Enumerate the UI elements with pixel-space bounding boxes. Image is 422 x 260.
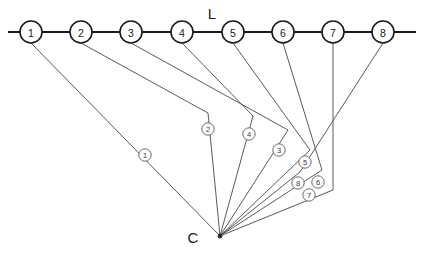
top-node-2[interactable]: 2 bbox=[70, 21, 92, 43]
edge-path-8 bbox=[220, 43, 383, 236]
edge-label-text-5: 5 bbox=[303, 158, 307, 167]
edge-label-text-4: 4 bbox=[247, 130, 251, 139]
edge-label-8-8[interactable]: 8 bbox=[292, 177, 304, 189]
edge-label-text-2: 2 bbox=[206, 125, 210, 134]
edges-group bbox=[31, 43, 383, 236]
hub-label: C bbox=[188, 229, 199, 246]
top-node-3-label: 3 bbox=[128, 27, 134, 39]
top-node-7[interactable]: 7 bbox=[322, 21, 344, 43]
top-node-2-label: 2 bbox=[78, 27, 84, 39]
edge-label-text-8: 8 bbox=[296, 179, 300, 188]
top-node-6[interactable]: 6 bbox=[272, 21, 294, 43]
top-node-8[interactable]: 8 bbox=[372, 21, 394, 43]
diagram-canvas: 12345678 12345678 LC bbox=[0, 0, 422, 260]
edge-label-3-3[interactable]: 3 bbox=[273, 144, 285, 156]
edge-label-5-5[interactable]: 5 bbox=[299, 156, 311, 168]
edge-path-1 bbox=[31, 43, 220, 236]
edge-path-2 bbox=[81, 43, 220, 236]
top-node-6-label: 6 bbox=[280, 27, 286, 39]
edge-path-7 bbox=[220, 43, 333, 236]
edge-label-text-1: 1 bbox=[143, 151, 147, 160]
edge-label-2-2[interactable]: 2 bbox=[202, 123, 214, 135]
top-node-7-label: 7 bbox=[330, 27, 336, 39]
top-node-3[interactable]: 3 bbox=[120, 21, 142, 43]
hub-group bbox=[218, 234, 223, 239]
convergence-point-C[interactable] bbox=[218, 234, 223, 239]
edge-label-4-4[interactable]: 4 bbox=[243, 128, 255, 140]
edge-label-1-1[interactable]: 1 bbox=[139, 149, 151, 161]
top-node-5[interactable]: 5 bbox=[222, 21, 244, 43]
diagram-svg: 12345678 12345678 LC bbox=[0, 0, 422, 260]
backbone-label: L bbox=[208, 5, 216, 22]
top-node-8-label: 8 bbox=[380, 27, 386, 39]
edge-label-text-7: 7 bbox=[307, 191, 311, 200]
edge-label-text-3: 3 bbox=[277, 146, 281, 155]
top-node-1-label: 1 bbox=[28, 27, 34, 39]
top-node-4-label: 4 bbox=[179, 27, 185, 39]
edge-labels-group: 12345678 bbox=[139, 123, 324, 201]
top-node-1[interactable]: 1 bbox=[20, 21, 42, 43]
edge-path-6 bbox=[220, 43, 322, 236]
top-node-5-label: 5 bbox=[230, 27, 236, 39]
top-node-4[interactable]: 4 bbox=[171, 21, 193, 43]
edge-label-text-6: 6 bbox=[316, 178, 320, 187]
edge-label-7-7[interactable]: 7 bbox=[303, 189, 315, 201]
edge-label-6-6[interactable]: 6 bbox=[312, 176, 324, 188]
